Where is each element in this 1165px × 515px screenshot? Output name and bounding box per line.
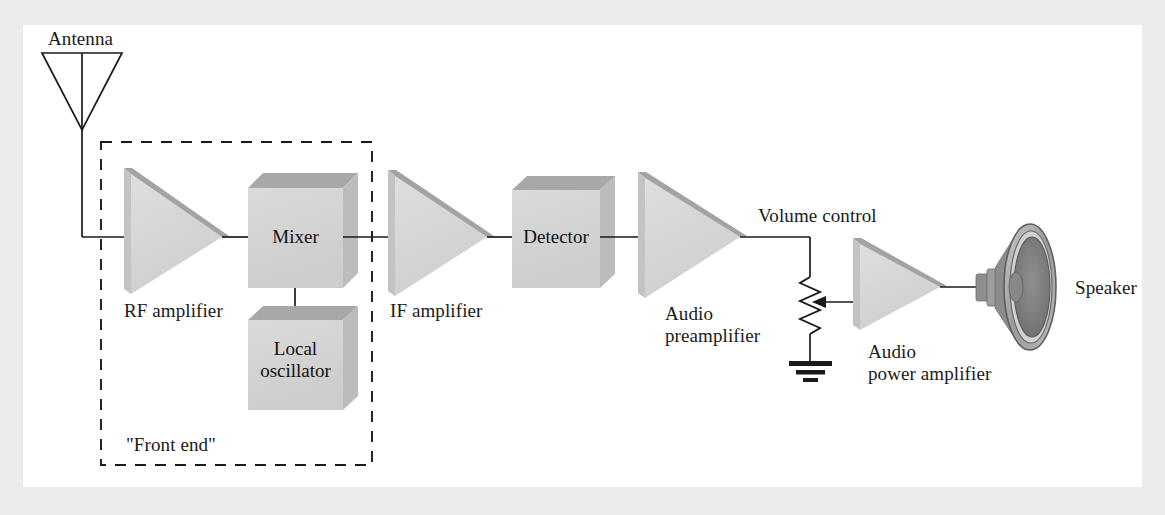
detector-top-face [512,176,615,190]
audio-power-amplifier-label-line2: power amplifier [868,363,991,385]
speaker-label: Speaker [1075,277,1137,299]
rf-amplifier-label: RF amplifier [124,300,223,322]
audio-power-amplifier-symbol [853,238,947,330]
detector-front-face [512,190,600,288]
if-amplifier-label: IF amplifier [390,300,482,322]
mixer-symbol [248,173,358,288]
audio-preamplifier-symbol [638,172,747,298]
audio-preamplifier-face [645,178,740,298]
detector-side-face [600,176,615,288]
potentiometer-resistor-icon [800,277,820,334]
speaker-dust-cap [1009,272,1023,302]
audio-preamplifier-label-line2: preamplifier [665,325,760,347]
speaker-symbol [976,224,1056,350]
volume-control-symbol[interactable] [740,237,860,382]
antenna-label: Antenna [48,28,113,50]
rf-amplifier-symbol [124,168,229,294]
local-oscillator-symbol [248,306,358,410]
audio-power-amplifier-face [860,244,940,330]
volume-control-label: Volume control [758,205,877,227]
audio-preamplifier-label-line1: Audio [665,303,713,325]
mixer-side-face [343,173,358,288]
scanned-page: Antenna RF amplifier Mixer Local oscilla… [0,0,1165,515]
front-end-label: "Front end" [126,434,216,456]
audio-power-amplifier-label-line1: Audio [868,341,916,363]
mixer-front-face [248,188,343,288]
detector-symbol [512,176,615,288]
mixer-top-face [248,173,358,188]
antenna-symbol [42,53,131,237]
local-oscillator-front-face [248,320,343,410]
audio-power-amplifier-left-edge [853,238,860,330]
if-amplifier-face [395,176,487,296]
rf-amplifier-face [131,174,222,294]
if-amplifier-symbol [388,170,494,296]
if-amplifier-left-edge [388,170,395,296]
audio-preamplifier-left-edge [638,172,645,298]
ground-symbol-icon [789,361,832,382]
local-oscillator-side-face [343,306,358,410]
rf-amplifier-left-edge [124,168,131,294]
diagram-stage: Antenna RF amplifier Mixer Local oscilla… [0,0,1165,515]
local-oscillator-top-face [248,306,358,320]
volume-wiper-arrow-icon [812,296,826,308]
